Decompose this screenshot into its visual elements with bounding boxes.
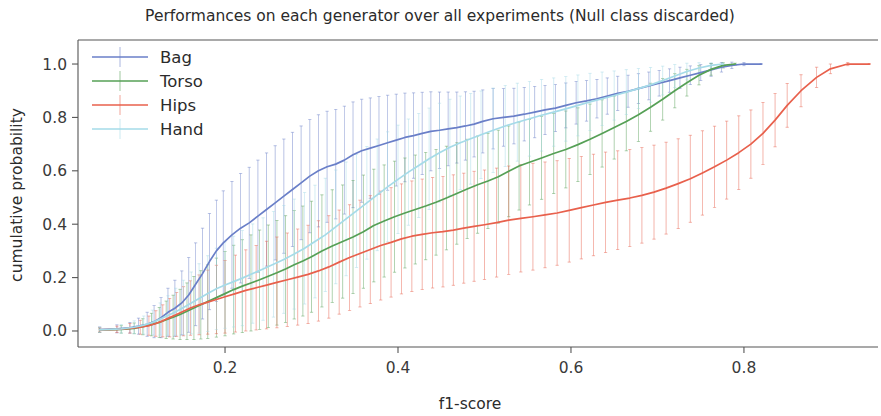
y-axis-label: cumulative probability	[8, 108, 26, 282]
x-tick-label: 0.2	[213, 359, 238, 377]
chart-legend[interactable]: BagTorsoHipsHand	[92, 47, 203, 139]
x-axis-label: f1-score	[439, 395, 502, 413]
chart-title: Performances on each generator over all …	[145, 7, 735, 25]
y-tick-label: 0.8	[42, 109, 67, 127]
y-tick-label: 0.4	[42, 216, 67, 234]
error-bars-hips	[98, 62, 871, 336]
legend-label: Hips	[160, 96, 196, 115]
y-tick-label: 1.0	[42, 56, 67, 74]
y-tick-label: 0.2	[42, 269, 67, 287]
legend-item-hips[interactable]: Hips	[92, 95, 196, 115]
legend-label: Bag	[160, 48, 192, 67]
error-bars-bag	[98, 62, 763, 337]
legend-item-hand[interactable]: Hand	[92, 119, 203, 139]
cumulative-probability-chart: Performances on each generator over all …	[0, 0, 881, 416]
legend-label: Hand	[160, 120, 203, 139]
x-tick-label: 0.6	[559, 359, 584, 377]
chart-title-group: Performances on each generator over all …	[145, 7, 735, 25]
y-tick-label: 0.0	[42, 322, 67, 340]
legend-item-bag[interactable]: Bag	[92, 47, 192, 67]
axis-tick-labels-layer: 0.00.20.40.60.81.00.20.40.60.8	[42, 56, 756, 377]
y-tick-label: 0.6	[42, 162, 67, 180]
figure-container: Performances on each generator over all …	[0, 0, 881, 416]
x-tick-label: 0.8	[732, 359, 757, 377]
x-tick-label: 0.4	[386, 359, 411, 377]
legend-label: Torso	[159, 72, 203, 91]
legend-item-torso[interactable]: Torso	[92, 71, 203, 91]
